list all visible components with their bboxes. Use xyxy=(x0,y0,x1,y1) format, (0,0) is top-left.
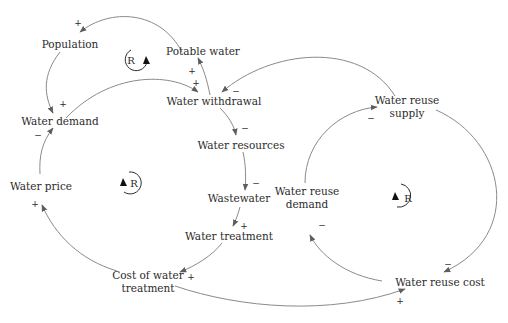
link-reuse-demand-to-reuse-supply xyxy=(305,107,377,183)
sign-cost-reuse-cost: + xyxy=(396,297,404,306)
node-label-line1: Water reuse xyxy=(375,94,440,107)
link-resources-to-wastewater xyxy=(243,152,246,190)
node-label-line1: Cost of water xyxy=(112,269,184,282)
link-withdrawal-to-resources xyxy=(220,108,236,135)
node-water-price: Water price xyxy=(10,180,72,193)
link-population-to-water-demand xyxy=(46,52,60,113)
node-water-reuse-demand: Water reuse demand xyxy=(275,185,340,211)
node-water-withdrawal: Water withdrawal xyxy=(167,95,262,108)
link-reuse-supply-to-withdrawal xyxy=(222,57,395,96)
link-reuse-supply-to-reuse-cost xyxy=(436,110,497,272)
loop-label-2: R xyxy=(130,178,138,189)
causal-loop-diagram: R R R Population Potable water Water wit… xyxy=(0,0,508,323)
sign-demand-withdrawal: + xyxy=(192,79,200,88)
sign-wastewater-treatment: + xyxy=(240,222,248,231)
node-water-reuse-cost: Water reuse cost xyxy=(395,276,485,289)
sign-withdrawal-potable: + xyxy=(188,67,196,76)
link-cost-to-reuse-cost xyxy=(175,286,405,306)
node-water-resources: Water resources xyxy=(197,139,284,152)
sign-reuse-demand-reuse-supply: − xyxy=(367,114,375,123)
node-potable-water: Potable water xyxy=(166,45,240,58)
link-treatment-to-cost xyxy=(180,243,222,272)
loop-label-1: R xyxy=(127,55,135,66)
sign-cost-price: + xyxy=(31,200,39,209)
sign-withdrawal-resources: − xyxy=(241,124,249,133)
node-label-line2: demand xyxy=(275,198,340,211)
sign-reuse-supply-reuse-cost: − xyxy=(444,260,452,269)
node-water-demand: Water demand xyxy=(21,115,99,128)
node-label-line1: Water reuse xyxy=(275,185,340,198)
node-wastewater: Wastewater xyxy=(208,192,271,205)
loop-label-3: R xyxy=(404,193,412,204)
sign-reuse-cost-reuse-demand: − xyxy=(318,221,326,230)
node-water-reuse-supply: Water reuse supply xyxy=(375,94,440,120)
sign-potable-population: + xyxy=(74,19,82,28)
node-label-line2: treatment xyxy=(112,282,184,295)
node-label-line2: supply xyxy=(375,107,440,120)
link-withdrawal-to-potable xyxy=(198,58,210,95)
loop-indicator-2: R xyxy=(120,172,141,194)
link-price-to-water-demand xyxy=(40,128,53,174)
loop-indicator-3: R xyxy=(392,184,412,207)
loop-indicator-1: R xyxy=(125,50,150,71)
sign-resources-wastewater: − xyxy=(252,179,260,188)
link-cost-to-price xyxy=(42,205,117,271)
sign-treatment-cost: + xyxy=(187,273,195,282)
link-wastewater-to-treatment xyxy=(233,207,240,226)
sign-population-demand: + xyxy=(59,100,67,109)
sign-reuse-supply-withdrawal: − xyxy=(232,87,240,96)
link-reuse-cost-to-reuse-demand xyxy=(310,235,382,281)
node-population: Population xyxy=(42,38,99,51)
sign-price-demand: − xyxy=(34,131,42,140)
node-water-treatment: Water treatment xyxy=(185,230,273,243)
node-cost-of-water-treatment: Cost of water treatment xyxy=(112,269,184,295)
